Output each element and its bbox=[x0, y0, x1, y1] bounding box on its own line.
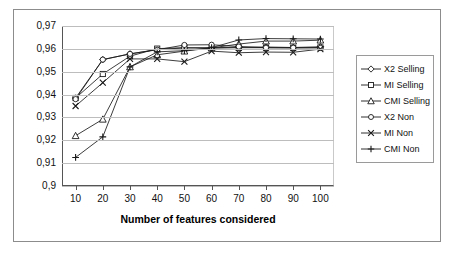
legend-marker-square-icon bbox=[360, 79, 382, 91]
marker-circle bbox=[73, 97, 78, 102]
y-tick-label: 0,95 bbox=[12, 67, 56, 77]
marker-triangle bbox=[72, 132, 79, 138]
legend-marker-x-icon bbox=[360, 127, 382, 139]
x-tick-label: 10 bbox=[61, 194, 91, 204]
x-tick-label: 90 bbox=[278, 194, 308, 204]
marker-plus bbox=[99, 133, 106, 140]
legend-item-cmi-selling[interactable]: CMI Selling bbox=[360, 93, 430, 108]
legend-item-mi-selling[interactable]: MI Selling bbox=[360, 77, 430, 92]
marker-circle bbox=[369, 114, 374, 119]
marker-circle bbox=[127, 51, 132, 56]
x-tick-label: 50 bbox=[169, 194, 199, 204]
y-gridline bbox=[62, 26, 334, 27]
y-tick-label: 0,9 bbox=[12, 181, 56, 191]
legend-item-cmi-non[interactable]: CMI Non bbox=[360, 141, 430, 156]
legend-label: X2 Selling bbox=[384, 64, 425, 74]
legend-marker-circle-icon bbox=[360, 111, 382, 123]
series-layer bbox=[62, 26, 334, 186]
y-tick-label: 0,91 bbox=[12, 158, 56, 168]
legend-label: MI Selling bbox=[384, 80, 424, 90]
y-tick-label: 0,93 bbox=[12, 112, 56, 122]
chart-figure: Number of features considered X2 Selling… bbox=[0, 0, 457, 255]
legend-label: CMI Selling bbox=[384, 96, 430, 106]
y-gridline bbox=[62, 95, 334, 96]
x-tick-label: 30 bbox=[115, 194, 145, 204]
x-tick-label: 70 bbox=[224, 194, 254, 204]
marker-plus bbox=[72, 154, 79, 161]
x-tick-label: 80 bbox=[251, 194, 281, 204]
series-line bbox=[76, 40, 321, 136]
marker-plus bbox=[235, 37, 242, 44]
x-tick-mark bbox=[239, 186, 240, 190]
x-tick-mark bbox=[293, 186, 294, 190]
y-gridline bbox=[62, 117, 334, 118]
x-tick-mark bbox=[184, 186, 185, 190]
x-axis-title: Number of features considered bbox=[62, 213, 334, 225]
y-tick-label: 0,96 bbox=[12, 44, 56, 54]
x-tick-mark bbox=[103, 186, 104, 190]
x-tick-mark bbox=[130, 186, 131, 190]
y-gridline bbox=[62, 140, 334, 141]
y-gridline bbox=[62, 72, 334, 73]
y-gridline bbox=[62, 49, 334, 50]
marker-circle bbox=[182, 42, 187, 47]
x-tick-mark bbox=[212, 186, 213, 190]
legend-label: MI Non bbox=[384, 128, 413, 138]
y-tick-label: 0,94 bbox=[12, 90, 56, 100]
legend-item-x2-non[interactable]: X2 Non bbox=[360, 109, 430, 124]
legend-label: CMI Non bbox=[384, 144, 420, 154]
legend-marker-diamond-icon bbox=[360, 63, 382, 75]
y-gridline bbox=[62, 163, 334, 164]
marker-diamond bbox=[368, 65, 374, 71]
x-tick-label: 100 bbox=[305, 194, 335, 204]
x-tick-label: 60 bbox=[197, 194, 227, 204]
marker-circle bbox=[100, 57, 105, 62]
y-tick-label: 0,97 bbox=[12, 21, 56, 31]
series-cmi-non bbox=[72, 35, 324, 161]
marker-plus bbox=[368, 145, 375, 152]
legend-item-x2-selling[interactable]: X2 Selling bbox=[360, 61, 430, 76]
legend-label: X2 Non bbox=[384, 112, 414, 122]
legend-marker-plus-icon bbox=[360, 143, 382, 155]
marker-x bbox=[73, 103, 79, 109]
y-tick-label: 0,92 bbox=[12, 135, 56, 145]
x-tick-mark bbox=[266, 186, 267, 190]
x-tick-mark bbox=[76, 186, 77, 190]
legend-marker-triangle-icon bbox=[360, 95, 382, 107]
x-tick-label: 40 bbox=[142, 194, 172, 204]
chart-legend: X2 SellingMI SellingCMI SellingX2 NonMI … bbox=[356, 55, 434, 163]
x-tick-mark bbox=[320, 186, 321, 190]
series-mi-selling bbox=[73, 45, 323, 101]
x-tick-label: 20 bbox=[88, 194, 118, 204]
marker-x bbox=[100, 80, 106, 86]
legend-item-mi-non[interactable]: MI Non bbox=[360, 125, 430, 140]
x-tick-mark bbox=[157, 186, 158, 190]
marker-square bbox=[369, 82, 374, 87]
series-mi-non bbox=[73, 46, 324, 109]
series-line bbox=[76, 47, 321, 98]
